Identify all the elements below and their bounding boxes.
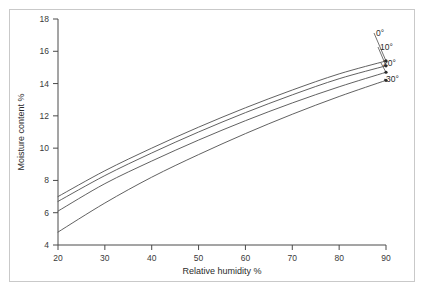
x-axis-ticks: 2030405060708090 (53, 245, 391, 263)
y-tick-label-6: 6 (44, 208, 49, 218)
x-tick-label-30: 30 (100, 253, 110, 263)
y-tick-label-16: 16 (40, 46, 50, 56)
series-line-20 (58, 72, 386, 211)
y-tick-label-12: 12 (40, 111, 50, 121)
sorption-isotherm-chart: 4681012141618 2030405060708090 0°10°20°3… (10, 10, 414, 281)
series-line-30 (58, 80, 386, 232)
y-axis-title: Moisture content % (16, 93, 26, 170)
y-tick-label-18: 18 (40, 14, 50, 24)
series-labels: 0°10°20°30° (374, 28, 399, 84)
x-axis-title: Relative humidity % (182, 266, 261, 276)
x-tick-label-60: 60 (241, 253, 251, 263)
x-tick-label-90: 90 (381, 253, 391, 263)
x-tick-label-50: 50 (194, 253, 204, 263)
y-tick-label-8: 8 (44, 175, 49, 185)
x-tick-label-70: 70 (288, 253, 298, 263)
x-tick-label-20: 20 (53, 253, 63, 263)
y-tick-label-14: 14 (40, 79, 50, 89)
figure-frame: 4681012141618 2030405060708090 0°10°20°3… (9, 9, 415, 282)
y-axis-ticks: 4681012141618 (40, 14, 58, 250)
series-label-10: 10° (380, 42, 393, 52)
series-label-30: 30° (386, 74, 399, 84)
series-label-20: 20° (383, 58, 396, 68)
y-tick-label-4: 4 (44, 240, 49, 250)
x-tick-label-80: 80 (334, 253, 344, 263)
x-tick-label-40: 40 (147, 253, 157, 263)
y-tick-label-10: 10 (40, 143, 50, 153)
series-paths (58, 61, 386, 232)
series-line-10 (58, 66, 386, 202)
series-line-0 (58, 61, 386, 197)
series-label-0: 0° (376, 28, 384, 38)
